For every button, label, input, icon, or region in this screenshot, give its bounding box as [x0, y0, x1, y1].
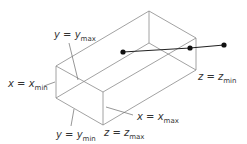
ray-start-point	[120, 49, 125, 54]
edge-top-front-left	[56, 66, 103, 92]
leader-lines	[44, 43, 133, 126]
leader-y-min	[71, 109, 74, 126]
edge-bottom-front-left	[56, 98, 103, 125]
label-y-max: y = ymax	[53, 29, 96, 43]
leader-y-max	[69, 43, 78, 80]
leader-x-max	[106, 107, 133, 115]
label-y-min: y = ymin	[55, 129, 96, 143]
edge-top-right	[149, 11, 196, 38]
ray-end-point	[221, 42, 226, 47]
label-x-max: x = xmax	[136, 111, 179, 125]
label-z-min: z = zmin	[197, 71, 236, 85]
bounding-box-diagram: y = ymax x = xmin y = ymin z = zmax x = …	[0, 0, 247, 144]
label-z-max: z = zmax	[103, 127, 145, 141]
label-x-min: x = xmin	[7, 78, 48, 92]
ray-intersection-point	[187, 45, 192, 50]
edge-top-front-right	[103, 38, 196, 92]
ray	[120, 42, 226, 54]
